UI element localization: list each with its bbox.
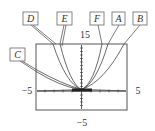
xmin-label: −5 [22, 85, 33, 96]
svg-text:D: D [26, 13, 35, 24]
label-d: D [23, 12, 38, 25]
curve-f [82, 44, 103, 90]
svg-text:A: A [114, 13, 122, 24]
graph-figure: D E F A B C 15 −5 5 −5 [0, 0, 155, 131]
label-e: E [57, 12, 72, 25]
curve-b [82, 44, 125, 90]
label-f: F [90, 12, 104, 25]
xmax-label: 5 [136, 85, 141, 96]
label-c: C [10, 48, 25, 61]
svg-text:F: F [93, 13, 101, 24]
ymin-label: −5 [77, 117, 88, 128]
svg-text:B: B [137, 13, 143, 24]
label-a: A [112, 12, 125, 25]
curve-left-mirror [37, 70, 82, 90]
ymax-label: 15 [80, 29, 90, 40]
origin-cluster [72, 89, 92, 92]
svg-text:E: E [60, 13, 67, 24]
curve-c [37, 72, 82, 90]
svg-text:C: C [14, 49, 21, 60]
label-b: B [133, 12, 147, 25]
